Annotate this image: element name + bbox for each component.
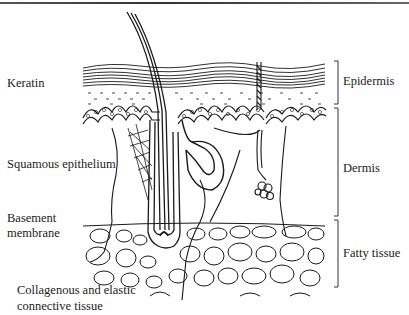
label-basement-membrane-line2: membrane — [7, 226, 60, 241]
label-connective-tissue-line2: connective tissue — [17, 299, 103, 314]
keratin-layer — [83, 63, 325, 88]
epidermis-bracket — [334, 61, 338, 104]
fatty-tissue-bracket — [334, 220, 338, 287]
sweat-gland — [255, 182, 274, 200]
sweat-duct — [257, 62, 266, 180]
label-connective-tissue-line1: Collagenous and elastic — [17, 283, 136, 298]
label-dermis: Dermis — [343, 161, 380, 176]
sebaceous-gland — [182, 120, 224, 190]
label-fatty-tissue: Fatty tissue — [343, 246, 400, 261]
label-basement-membrane-line1: Basement — [7, 211, 56, 226]
granular-layer — [88, 93, 321, 104]
dermis-bracket — [334, 108, 338, 216]
label-epidermis: Epidermis — [343, 74, 394, 89]
brackets — [334, 61, 338, 287]
label-squamous-epithelium: Squamous epithelium — [7, 157, 116, 172]
label-keratin: Keratin — [7, 76, 44, 91]
